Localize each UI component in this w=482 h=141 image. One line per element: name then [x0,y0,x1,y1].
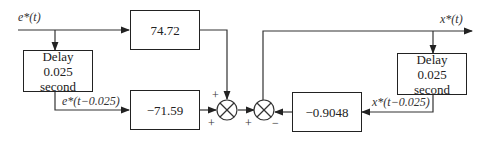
sum2-left-sign: + [245,116,252,131]
input-delay-block: Delay 0.025 second [23,50,93,92]
output-delayed-label: x*(t−0.025) [372,95,430,110]
input-signal-label: e*(t) [18,10,41,25]
delay-time: 0.025 second [398,67,466,97]
gain-value: 74.72 [150,23,179,38]
gain-value: −71.59 [147,103,184,118]
delay-title: Delay [42,49,73,64]
output-signal-label: x*(t) [440,12,463,27]
sum1-top-sign: + [212,88,219,103]
gain-block-top: 74.72 [130,10,200,50]
gain-block-feedback: −0.9048 [292,92,362,132]
sum1-left-sign: + [208,116,215,131]
gain-value: −0.9048 [305,105,348,120]
delay-title: Delay [416,52,447,67]
input-delayed-label: e*(t−0.025) [62,94,120,109]
output-delay-block: Delay 0.025 second [397,53,467,95]
sum2-right-sign: − [272,116,279,131]
sum1-junction [217,100,237,120]
delay-time: 0.025 second [24,64,92,94]
gain-block-bottom: −71.59 [130,90,200,130]
sum2-junction [254,100,274,120]
